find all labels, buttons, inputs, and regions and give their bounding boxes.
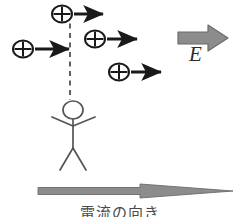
stick-figure-leg-left <box>60 148 73 170</box>
stick-figure-leg-right <box>73 148 86 170</box>
electric-field-block-arrow <box>178 25 228 51</box>
current-direction-arrow <box>38 184 233 198</box>
observer-stick-figure <box>52 101 95 170</box>
charge-left <box>13 41 33 58</box>
current-direction-caption: 電流の向き <box>80 206 160 217</box>
figure-canvas <box>0 0 235 217</box>
electric-field-label: E <box>189 44 202 65</box>
charge-top <box>52 6 72 23</box>
stick-figure-head <box>63 101 83 119</box>
physics-figure: E 電流の向き <box>0 0 235 217</box>
charge-lower-right <box>109 64 129 81</box>
charge-middle-right <box>85 31 105 48</box>
